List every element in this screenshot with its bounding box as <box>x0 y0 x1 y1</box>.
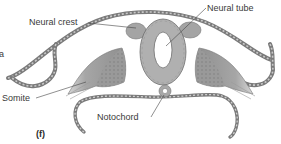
right-somite <box>195 48 255 99</box>
label-neural-crest: Neural crest <box>29 17 78 27</box>
panel-label: (f) <box>36 129 45 139</box>
label-somite: Somite <box>2 93 30 103</box>
neural-tube <box>140 19 186 85</box>
cropped-left-text: a <box>0 49 4 59</box>
left-somite <box>66 48 126 99</box>
label-notochord: Notochord <box>97 112 139 122</box>
label-neural-tube: Neural tube <box>207 3 254 13</box>
notochord <box>159 85 171 97</box>
